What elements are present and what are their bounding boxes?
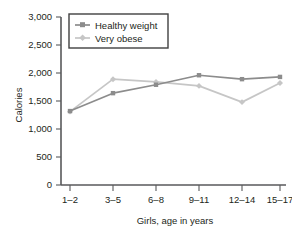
data-point	[196, 83, 202, 89]
data-point	[68, 109, 72, 113]
data-point	[240, 77, 244, 81]
data-point	[277, 80, 283, 86]
x-tick-label-2: 6–8	[148, 194, 164, 205]
x-axis-title: Girls, age in years	[137, 215, 214, 226]
x-tick-label-1: 3–5	[105, 194, 121, 205]
x-tick-label-3: 9–11	[189, 194, 209, 205]
data-point	[154, 83, 158, 87]
series-line-very-obese	[70, 79, 280, 111]
y-axis-title: Calories	[13, 87, 24, 122]
line-chart: 3,000 2,500 2,000 1,500 1,000 500 0 1–2 …	[0, 0, 292, 236]
y-tick-label-2500: 2,500	[28, 39, 52, 50]
legend-label-healthy-weight: Healthy weight	[95, 20, 158, 31]
y-tick-label-2000: 2,000	[28, 67, 52, 78]
data-point	[111, 91, 115, 95]
x-tick-label-0: 1–2	[62, 194, 78, 205]
data-point	[239, 99, 245, 105]
x-axis-ticks	[70, 185, 280, 191]
y-tick-label-500: 500	[36, 151, 52, 162]
chart-container: 3,000 2,500 2,000 1,500 1,000 500 0 1–2 …	[0, 0, 292, 236]
x-tick-label-5: 15–17	[267, 194, 292, 205]
series-line-healthy-weight	[70, 75, 280, 111]
data-point	[278, 75, 282, 79]
y-tick-label-0: 0	[47, 179, 52, 190]
y-tick-label-1000: 1,000	[28, 123, 52, 134]
y-tick-label-3000: 3,000	[28, 11, 52, 22]
x-tick-label-4: 12–14	[229, 194, 255, 205]
legend-label-very-obese: Very obese	[95, 33, 143, 44]
data-point	[197, 73, 201, 77]
series-markers-very-obese	[67, 76, 283, 114]
legend-marker-healthy-weight	[80, 22, 85, 27]
y-tick-label-1500: 1,500	[28, 95, 52, 106]
